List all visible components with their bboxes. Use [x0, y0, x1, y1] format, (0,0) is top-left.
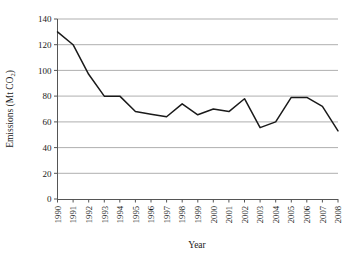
x-tick-label: 2005: [286, 206, 296, 223]
x-tick-label: 2004: [271, 205, 281, 223]
x-tick-label: 1993: [100, 206, 110, 223]
y-tick-label: 0: [47, 194, 52, 204]
x-tick-label: 2000: [209, 206, 219, 223]
y-tick-label: 120: [38, 40, 52, 50]
x-tick-label: 1992: [84, 206, 94, 223]
y-axis-title-close: ): [5, 70, 16, 73]
y-tick-label: 100: [38, 66, 52, 76]
x-tick-label: 1990: [53, 206, 63, 223]
y-tick-label: 80: [43, 91, 53, 101]
x-tick-label: 1996: [146, 205, 156, 223]
x-tick-label: 1999: [193, 206, 203, 223]
x-tick-label: 2003: [255, 206, 265, 223]
x-tick-label: 2001: [224, 206, 234, 223]
x-tick-label: 2006: [302, 205, 312, 223]
x-tick-label: 2007: [318, 205, 328, 223]
chart-canvas: 020406080100120140 199019911992199319941…: [0, 0, 349, 257]
x-tick-label: 1994: [115, 205, 125, 223]
x-tick-label: 1991: [68, 206, 78, 223]
y-tick-label: 20: [43, 169, 53, 179]
svg-text:Emissions (Mt CO2): Emissions (Mt CO2): [5, 70, 16, 148]
x-tick-label: 1995: [131, 206, 141, 223]
x-axis-title: Year: [188, 240, 206, 250]
x-tick-label: 1997: [162, 205, 172, 223]
y-tick-label: 60: [43, 117, 53, 127]
y-tick-label: 140: [38, 14, 52, 24]
emissions-line-chart: 020406080100120140 199019911992199319941…: [0, 0, 349, 257]
y-tick-label: 40: [43, 143, 53, 153]
x-tick-label: 2008: [333, 206, 343, 223]
x-tick-label: 1998: [177, 206, 187, 223]
x-tick-label: 2002: [240, 206, 250, 223]
y-axis-title-main: Emissions (Mt CO: [5, 76, 16, 147]
y-axis-title: Emissions (Mt CO2): [5, 70, 16, 148]
